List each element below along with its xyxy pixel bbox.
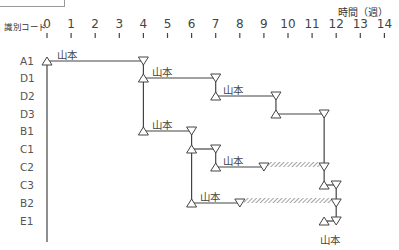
gantt-chart	[0, 0, 399, 250]
end-marker-icon	[319, 163, 329, 171]
owner-label-b2: 山本	[200, 189, 220, 204]
owner-label-d1: 山本	[152, 64, 172, 79]
owner-label-d2: 山本	[223, 82, 243, 97]
owner-label-a1: 山本	[57, 47, 77, 62]
owner-label-c2: 山本	[223, 153, 243, 168]
owner-label-b1: 山本	[152, 117, 172, 132]
end-marker-icon	[331, 199, 341, 207]
owner-label-e1: 山本	[320, 232, 340, 247]
